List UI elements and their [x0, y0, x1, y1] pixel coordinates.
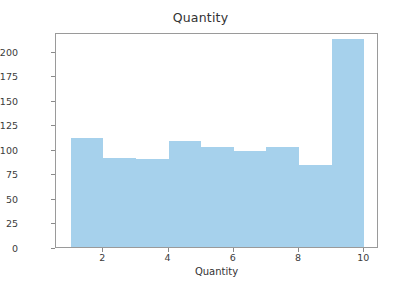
y-axis-tick-label: 150	[0, 95, 18, 106]
y-axis-tick-label: 200	[0, 46, 18, 57]
y-axis-tick-label: 25	[0, 218, 18, 229]
y-axis-tick-label: 100	[0, 144, 18, 155]
x-axis-tick-label: 8	[278, 252, 318, 263]
x-axis-tick-mark	[168, 248, 169, 252]
histogram-bar	[103, 158, 136, 247]
histogram-figure: Quantity 0255075100125150175200 246810 Q…	[0, 0, 401, 292]
x-axis-label: Quantity	[55, 266, 378, 277]
y-axis-tick-label: 50	[0, 193, 18, 204]
x-axis-tick-label: 10	[343, 252, 383, 263]
y-axis-tick-label: 125	[0, 120, 18, 131]
x-axis-tick-label: 6	[213, 252, 253, 263]
x-axis-tick-mark	[298, 248, 299, 252]
histogram-bar	[136, 159, 169, 247]
x-axis-tick-label: 4	[148, 252, 188, 263]
y-axis-tick-label: 75	[0, 169, 18, 180]
histogram-bar	[299, 165, 332, 247]
y-axis-tick-label: 0	[0, 243, 18, 254]
chart-title: Quantity	[0, 10, 401, 25]
y-axis-tick-label: 175	[0, 71, 18, 82]
plot-area	[55, 33, 378, 248]
histogram-bar	[201, 147, 234, 247]
histogram-bar	[332, 39, 365, 247]
histogram-bar	[71, 138, 104, 247]
x-axis-tick-label: 2	[82, 252, 122, 263]
bars-layer	[56, 34, 377, 247]
x-axis-tick-mark	[233, 248, 234, 252]
y-axis-tick-mark	[51, 248, 55, 249]
histogram-bar	[169, 141, 202, 247]
x-axis-tick-mark	[363, 248, 364, 252]
x-axis-tick-mark	[102, 248, 103, 252]
histogram-bar	[266, 147, 299, 247]
histogram-bar	[234, 151, 267, 247]
